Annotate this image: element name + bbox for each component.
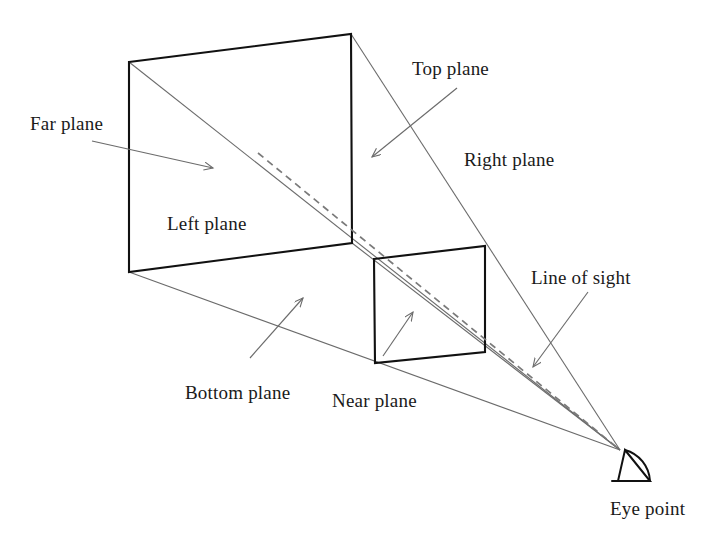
far-plane-shape: [129, 34, 352, 272]
label-line-of-sight: Line of sight: [531, 267, 631, 289]
eye-point-icon: [612, 450, 650, 481]
label-near-plane: Near plane: [332, 390, 417, 412]
label-bottom-plane: Bottom plane: [185, 382, 290, 404]
label-far-plane: Far plane: [30, 113, 103, 135]
far-plane-arrow: [92, 141, 213, 168]
view-frustum-diagram: Far plane Left plane Top plane Right pla…: [0, 0, 724, 536]
label-top-plane: Top plane: [412, 58, 489, 80]
label-right-plane: Right plane: [464, 149, 554, 171]
line-of-sight-arrow: [533, 292, 588, 367]
near-plane-arrow: [383, 312, 413, 356]
line-of-sight-dashed: [258, 153, 620, 450]
top-plane-arrow: [372, 88, 457, 157]
ray-top-right: [351, 34, 620, 450]
label-left-plane: Left plane: [167, 213, 247, 235]
label-eye-point: Eye point: [610, 498, 685, 520]
bottom-plane-arrow: [250, 298, 303, 358]
